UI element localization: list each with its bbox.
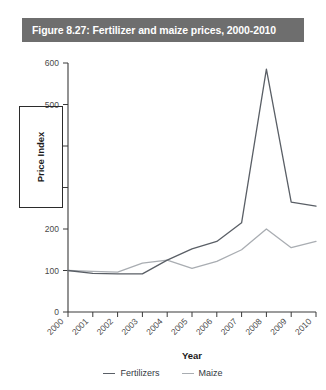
x-tick-label-2001: 2001 (70, 316, 91, 337)
legend-swatch-fertilizers (103, 373, 115, 374)
y-axis-title: Price Index (35, 131, 46, 182)
x-tick-label-2000: 2000 (45, 316, 66, 337)
x-tick-labels: 2000 2001 2002 2003 2004 2005 2006 2007 … (45, 316, 314, 337)
legend-label-fertilizers: Fertilizers (120, 368, 159, 378)
legend-item-fertilizers[interactable]: Fertilizers (103, 368, 159, 378)
y-tick-label-600: 600 (45, 58, 59, 68)
x-tick-label-2010: 2010 (293, 316, 314, 337)
x-tick-label-2003: 2003 (119, 316, 140, 337)
series-line-maize (68, 229, 316, 272)
x-tick-label-2004: 2004 (144, 316, 165, 337)
x-tick-label-2008: 2008 (243, 316, 264, 337)
y-tick-label-100: 100 (45, 266, 59, 276)
y-tick-marks (63, 63, 68, 312)
chart-plot: 600 500 200 100 0 Price Index 2000 2001 … (0, 0, 326, 390)
y-tick-label-500: 500 (45, 100, 59, 110)
figure-container: Figure 8.27: Fertilizer and maize prices… (0, 0, 326, 390)
legend-label-maize: Maize (199, 368, 223, 378)
chart-legend: Fertilizers Maize (0, 368, 326, 378)
series-line-fertilizers (68, 69, 316, 274)
x-tick-label-2006: 2006 (194, 316, 215, 337)
legend-swatch-maize (182, 373, 194, 374)
x-tick-marks (68, 312, 316, 317)
x-tick-label-2007: 2007 (219, 316, 240, 337)
x-tick-label-2005: 2005 (169, 316, 190, 337)
legend-item-maize[interactable]: Maize (182, 368, 223, 378)
y-tick-label-200: 200 (45, 224, 59, 234)
x-tick-label-2002: 2002 (95, 316, 116, 337)
x-axis-title: Year (182, 350, 202, 361)
x-tick-label-2009: 2009 (268, 316, 289, 337)
y-tick-label-0: 0 (54, 307, 59, 317)
